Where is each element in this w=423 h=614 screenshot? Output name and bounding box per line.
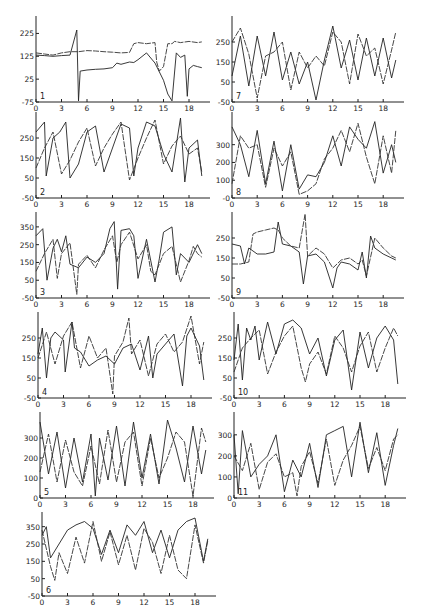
x-tick-label: 9 xyxy=(116,598,121,607)
chart-panel-6: 036912151835025015050-506 xyxy=(8,514,222,612)
y-tick-label: 200 xyxy=(218,452,233,461)
y-tick-label: 225 xyxy=(20,29,35,38)
y-tick-label: -50 xyxy=(218,294,230,303)
x-tick-label: 15 xyxy=(159,300,169,309)
x-tick-label: 12 xyxy=(328,104,338,113)
series-dashed xyxy=(232,214,396,276)
x-tick-label: 0 xyxy=(230,300,235,309)
x-tick-label: 0 xyxy=(34,104,39,113)
chart-panel-11: 0369121518300200100011 xyxy=(200,414,412,514)
series-solid xyxy=(36,30,202,101)
panel-number: 1 xyxy=(40,92,45,101)
y-tick-label: 250 xyxy=(20,134,35,143)
y-tick-label: 50 xyxy=(30,575,40,584)
x-tick-label: 6 xyxy=(282,500,287,509)
y-tick-label: -50 xyxy=(22,294,34,303)
y-tick-label: 150 xyxy=(218,354,233,363)
x-tick-label: 0 xyxy=(38,500,43,509)
x-tick-label: 18 xyxy=(184,300,194,309)
x-tick-label: 18 xyxy=(186,400,196,409)
y-tick-label: -50 xyxy=(218,98,230,107)
y-tick-label: 50 xyxy=(220,274,230,283)
y-tick-label: 300 xyxy=(218,431,233,440)
x-tick-label: 0 xyxy=(36,400,41,409)
y-tick-label: 100 xyxy=(216,176,231,185)
x-tick-label: 15 xyxy=(161,400,171,409)
series-solid xyxy=(234,422,398,494)
panel-number: 5 xyxy=(44,488,49,497)
x-tick-label: 3 xyxy=(63,500,68,509)
x-tick-label: 0 xyxy=(232,400,237,409)
x-tick-label: 12 xyxy=(330,500,340,509)
series-solid xyxy=(42,518,208,561)
series-dashed xyxy=(38,316,204,394)
x-tick-label: 18 xyxy=(378,104,388,113)
x-tick-label: 9 xyxy=(307,500,312,509)
axis-lines xyxy=(232,112,404,198)
x-tick-label: 9 xyxy=(110,200,115,209)
y-tick-label: 50 xyxy=(222,374,232,383)
y-tick-label: 150 xyxy=(20,258,35,267)
x-tick-label: 3 xyxy=(61,400,66,409)
panel-number: 2 xyxy=(40,188,45,197)
x-tick-label: 15 xyxy=(163,500,173,509)
axis-lines xyxy=(36,212,210,298)
x-tick-label: 0 xyxy=(34,300,39,309)
x-tick-label: 6 xyxy=(85,200,90,209)
y-tick-label: 100 xyxy=(218,473,233,482)
x-tick-label: 18 xyxy=(190,598,200,607)
chart-panel-1: 036912151822512525-751 xyxy=(2,18,216,118)
x-tick-label: 15 xyxy=(353,200,363,209)
chart-panel-9: 036912151825015050-509 xyxy=(198,214,410,314)
y-tick-label: 25 xyxy=(24,75,34,84)
y-tick-label: -50 xyxy=(220,394,232,403)
x-tick-label: 0 xyxy=(230,104,235,113)
y-tick-label: 125 xyxy=(20,52,35,61)
x-tick-label: 12 xyxy=(328,200,338,209)
y-tick-label: 250 xyxy=(218,334,233,343)
chart-panel-8: 0369121518300200100-08 xyxy=(198,114,410,214)
y-tick-label: 50 xyxy=(220,78,230,87)
chart-panel-10: 036912151825015050-5010 xyxy=(200,314,412,414)
series-solid xyxy=(38,322,204,386)
x-tick-label: 12 xyxy=(135,400,145,409)
x-tick-label: 12 xyxy=(137,500,147,509)
x-tick-label: 12 xyxy=(328,300,338,309)
y-tick-label: 150 xyxy=(216,254,231,263)
y-tick-label: 50 xyxy=(24,276,34,285)
x-tick-label: 3 xyxy=(257,500,262,509)
y-tick-label: -50 xyxy=(28,592,40,601)
x-tick-label: 3 xyxy=(257,400,262,409)
x-tick-label: 6 xyxy=(89,500,94,509)
x-tick-label: 3 xyxy=(65,598,70,607)
panel-number: 10 xyxy=(238,388,248,397)
x-tick-label: 12 xyxy=(133,200,143,209)
series-solid xyxy=(232,26,396,100)
x-tick-label: 0 xyxy=(232,500,237,509)
x-tick-label: 15 xyxy=(353,104,363,113)
x-tick-label: 12 xyxy=(330,400,340,409)
x-tick-label: 18 xyxy=(378,300,388,309)
series-solid xyxy=(40,420,206,496)
panel-number: 6 xyxy=(46,586,51,595)
series-dashed xyxy=(234,426,398,496)
y-tick-label: 100 xyxy=(24,474,39,483)
y-tick-label: -75 xyxy=(22,98,34,107)
x-tick-label: 6 xyxy=(87,400,92,409)
series-dashed xyxy=(36,41,202,71)
y-tick-label: 200 xyxy=(24,454,39,463)
x-tick-label: 15 xyxy=(165,598,175,607)
x-tick-label: 0 xyxy=(40,598,45,607)
x-tick-label: 15 xyxy=(355,500,365,509)
x-tick-label: 9 xyxy=(307,400,312,409)
panel-number: 7 xyxy=(236,92,241,101)
y-tick-label: -50 xyxy=(24,394,36,403)
y-tick-label: 200 xyxy=(216,158,231,167)
x-tick-label: 18 xyxy=(380,500,390,509)
y-tick-label: 150 xyxy=(216,58,231,67)
y-tick-label: -0 xyxy=(223,194,231,203)
x-tick-label: 9 xyxy=(110,300,115,309)
x-tick-label: 15 xyxy=(159,200,169,209)
y-tick-label: 0 xyxy=(227,494,232,503)
x-tick-label: 9 xyxy=(114,500,119,509)
